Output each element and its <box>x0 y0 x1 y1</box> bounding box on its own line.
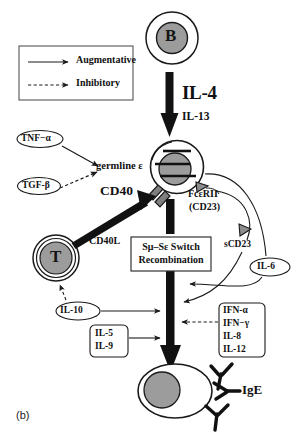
ige-label: IgE <box>242 383 262 397</box>
switch-recombination-line2: Recombination <box>134 254 208 266</box>
fcer2-label-line1: FcεRII <box>188 188 218 200</box>
figure-panel-b: Augmentative Inhibitory B IL-4 IL-13 TNF… <box>0 0 298 444</box>
scd23-label: sCD23 <box>224 240 251 250</box>
tnf-alpha-label: TNF−α <box>21 134 51 144</box>
switch-recombination-line1: Sμ–Sε Switch <box>134 241 208 253</box>
inhibitory-cytokine-3: IL-12 <box>223 344 246 355</box>
b-cell-letter: B <box>165 27 176 45</box>
legend-label-augmentative: Augmentative <box>76 55 136 66</box>
diagram-canvas <box>0 0 298 444</box>
plasma-cell-nucleus <box>144 372 180 408</box>
switch-recombination-arrow <box>160 199 181 372</box>
activated-b-cell-nucleus <box>159 153 191 185</box>
panel-label: (b) <box>16 410 29 422</box>
il10-label: IL-10 <box>60 306 83 316</box>
inhibitory-cytokine-2: IL-8 <box>223 331 241 342</box>
tnf-alpha-arrow <box>62 146 98 166</box>
inhibitory-cytokine-0: IFN-α <box>223 305 248 316</box>
tgf-beta-label: TGF-β <box>22 181 50 191</box>
il4-label: IL-4 <box>182 83 217 103</box>
cd40l-label: CD40L <box>89 236 120 247</box>
il10-to-tcell-arrow <box>60 285 66 300</box>
il4-il13-arrow <box>161 72 179 137</box>
tgf-beta-arrow <box>60 172 97 188</box>
il6-label: IL-6 <box>257 262 275 272</box>
ige-antibody-middle <box>214 383 240 399</box>
ige-antibody-top <box>211 364 232 389</box>
fcer2-label-line2: (CD23) <box>189 201 220 213</box>
il9-label: IL-9 <box>95 342 113 352</box>
il5-label: IL-5 <box>95 329 113 339</box>
t-cell-letter: T <box>50 248 61 266</box>
germline-epsilon-label: germline ε <box>96 160 143 171</box>
ige-antibody-bottom <box>206 405 228 430</box>
legend-label-inhibitory: Inhibitory <box>76 78 120 89</box>
cd40-label: CD40 <box>100 184 133 198</box>
il13-label: IL-13 <box>182 110 209 122</box>
inhibitory-cytokine-1: IFN−γ <box>223 318 249 329</box>
